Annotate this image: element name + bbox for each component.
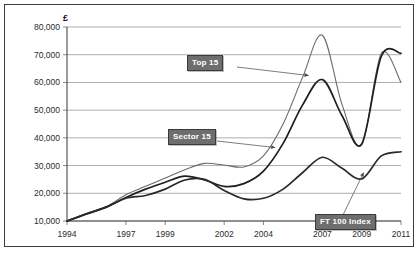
axes [67, 27, 401, 221]
series-label-sector-15: Sector 15 [168, 129, 216, 145]
callout-connector [237, 67, 309, 76]
callout-connectors [217, 67, 364, 217]
y-axis-unit-label: £ [63, 13, 68, 23]
callout-connector [217, 141, 275, 148]
x-tick-label: 2007 [313, 229, 332, 239]
series-label-top-15: Top 15 [187, 55, 223, 71]
y-tick-label: 50,000 [34, 105, 60, 115]
gridlines [67, 27, 401, 221]
y-tick-label: 60,000 [34, 77, 60, 87]
x-tick-label: 2002 [215, 229, 234, 239]
x-tick-label: 1994 [58, 229, 77, 239]
y-tick-label: 70,000 [34, 50, 60, 60]
y-axis-tick-labels: 10,00020,00030,00040,00050,00060,00070,0… [34, 22, 60, 226]
x-tick-label: 2011 [392, 229, 411, 239]
line-chart: 10,00020,00030,00040,00050,00060,00070,0… [5, 5, 412, 245]
x-tick-label: 1997 [116, 229, 135, 239]
y-tick-label: 10,000 [34, 216, 60, 226]
callout-connector [342, 173, 364, 218]
y-tick-label: 20,000 [34, 188, 60, 198]
chart-frame: 10,00020,00030,00040,00050,00060,00070,0… [4, 4, 414, 247]
x-tick-label: 2004 [254, 229, 273, 239]
x-axis-tick-labels: 19941997199920022004200720092011 [58, 229, 411, 239]
y-tick-label: 40,000 [34, 133, 60, 143]
x-tick-label: 1999 [156, 229, 175, 239]
y-tick-label: 30,000 [34, 161, 60, 171]
x-tick-label: 2009 [352, 229, 371, 239]
y-tick-label: 80,000 [34, 22, 60, 32]
series-label-ft-100-index: FT 100 Index [315, 214, 376, 230]
